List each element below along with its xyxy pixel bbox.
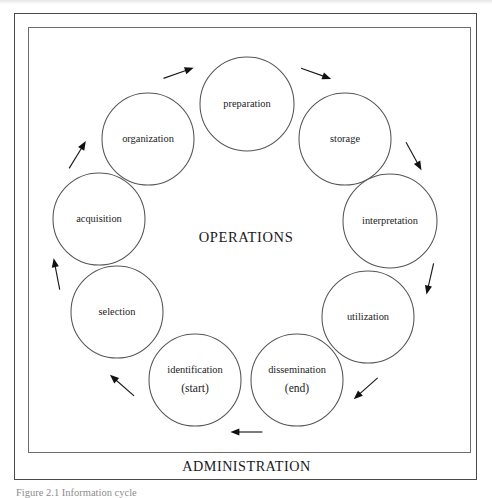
arrow-head [322, 73, 332, 80]
figure-page: preparationstorageinterpretationutilizat… [0, 0, 492, 498]
cycle-node-dissemination: dissemination(end) [251, 334, 343, 426]
node-label-storage: storage [330, 133, 360, 144]
node-label-organization: organization [122, 133, 175, 144]
node-sublabel-identification: (start) [181, 382, 209, 395]
arrow-head [414, 161, 421, 171]
arrow-head [425, 285, 432, 295]
flow-arrow-dissemination-to-identification [230, 428, 262, 435]
bottom-heading-administration: ADMINISTRATION [15, 458, 478, 475]
cycle-node-organization: organization [102, 93, 194, 185]
arrow-head [52, 258, 59, 268]
node-label-identification: identification [167, 364, 223, 375]
arrow-shaft [406, 142, 419, 165]
cycle-node-identification: identification(start) [149, 334, 241, 426]
node-label-interpretation: interpretation [362, 215, 419, 226]
arrow-shaft [69, 146, 83, 168]
cycle-diagram-canvas: preparationstorageinterpretationutilizat… [0, 0, 492, 498]
center-heading-operations: OPERATIONS [0, 229, 492, 246]
cycle-node-acquisition: acquisition [53, 173, 145, 265]
node-label-selection: selection [99, 306, 137, 317]
node-label-dissemination: dissemination [268, 364, 327, 375]
flow-arrow-utilization-to-dissemination [354, 378, 378, 399]
arrow-head [184, 67, 194, 74]
flow-arrow-acquisition-to-organization [69, 141, 86, 168]
flow-arrow-interpretation-to-utilization [425, 263, 434, 294]
node-sublabel-dissemination: (end) [285, 382, 310, 395]
flow-arrow-identification-to-selection [110, 375, 134, 396]
arrow-shaft [55, 264, 60, 290]
cycle-node-interpretation: interpretation [343, 174, 437, 268]
node-circle-identification [149, 334, 241, 426]
node-label-preparation: preparation [223, 98, 271, 109]
arrow-head [230, 428, 239, 435]
arrow-shaft [428, 263, 434, 288]
arrow-shaft [163, 70, 188, 79]
flow-arrow-storage-to-interpretation [406, 142, 421, 170]
node-circle-dissemination [251, 334, 343, 426]
figure-caption: Figure 2.1 Information cycle [16, 487, 456, 498]
flow-arrow-selection-to-acquisition [52, 258, 60, 289]
cycle-node-utilization: utilization [322, 271, 414, 363]
node-label-acquisition: acquisition [76, 213, 122, 224]
flow-arrow-preparation-to-storage [301, 68, 331, 79]
arrow-shaft [301, 68, 325, 77]
arrow-head [78, 141, 86, 151]
cycle-node-storage: storage [299, 93, 391, 185]
cycle-node-selection: selection [71, 266, 163, 358]
flow-arrow-organization-to-preparation [163, 67, 193, 78]
arrow-shaft [114, 379, 134, 396]
arrow-shaft [358, 378, 377, 395]
node-label-utilization: utilization [347, 311, 390, 322]
cycle-node-preparation: preparation [200, 57, 294, 151]
